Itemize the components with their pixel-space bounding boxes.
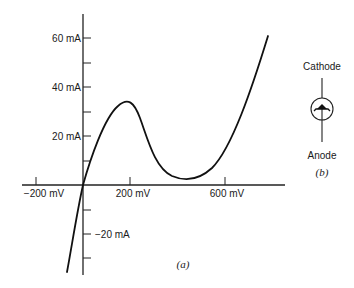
tunnel-diode-symbol: Cathode Anode (b) <box>303 61 341 179</box>
x-tick-label-neg200mv: −200 mV <box>24 188 65 199</box>
x-tick-label-600mv: 600 mV <box>210 188 245 199</box>
y-ticks <box>83 38 91 258</box>
cathode-label: Cathode <box>303 61 341 72</box>
y-tick-label-60ma: 60 mA <box>52 33 81 44</box>
axes: 60 mA 40 mA 20 mA −20 mA −200 mV 200 mV … <box>22 14 285 275</box>
x-tick-label-200mv: 200 mV <box>116 188 151 199</box>
panel-b-caption: (b) <box>316 166 329 179</box>
diode-triangle-icon <box>317 104 327 109</box>
panel-a-caption: (a) <box>177 258 190 271</box>
y-tick-label-40ma: 40 mA <box>52 82 81 93</box>
figure-canvas: 60 mA 40 mA 20 mA −20 mA −200 mV 200 mV … <box>0 0 354 288</box>
y-tick-label-20ma: 20 mA <box>52 131 81 142</box>
anode-label: Anode <box>308 150 337 161</box>
y-tick-label-neg20ma: −20 mA <box>95 229 130 240</box>
